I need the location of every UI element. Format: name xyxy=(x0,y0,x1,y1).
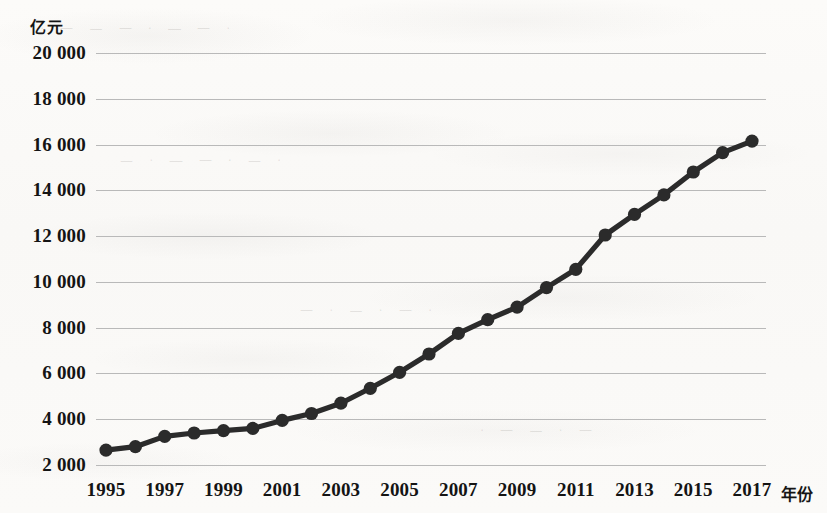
data-point-marker xyxy=(540,281,553,294)
data-point-marker xyxy=(452,327,465,340)
data-point-marker xyxy=(188,426,201,439)
data-point-marker xyxy=(276,414,289,427)
data-point-marker xyxy=(305,407,318,420)
data-point-marker xyxy=(569,263,582,276)
data-point-marker xyxy=(510,301,523,314)
data-point-marker xyxy=(393,366,406,379)
line-chart: · 一 — 一 · ― 一 · — · ― 一 · — · 一 · — · 一 … xyxy=(0,0,827,513)
data-point-marker xyxy=(364,382,377,395)
data-point-markers xyxy=(99,135,758,457)
data-point-marker xyxy=(129,440,142,453)
data-point-marker xyxy=(599,228,612,241)
data-point-marker xyxy=(745,135,758,148)
data-point-marker xyxy=(481,313,494,326)
data-series-line xyxy=(106,141,752,450)
plot-area xyxy=(0,0,827,513)
data-point-marker xyxy=(628,208,641,221)
data-point-marker xyxy=(422,347,435,360)
data-point-marker xyxy=(246,422,259,435)
data-point-marker xyxy=(158,430,171,443)
data-point-marker xyxy=(657,188,670,201)
data-point-marker xyxy=(334,397,347,410)
data-point-marker xyxy=(99,444,112,457)
data-point-marker xyxy=(217,424,230,437)
data-point-marker xyxy=(687,165,700,178)
data-point-marker xyxy=(716,146,729,159)
